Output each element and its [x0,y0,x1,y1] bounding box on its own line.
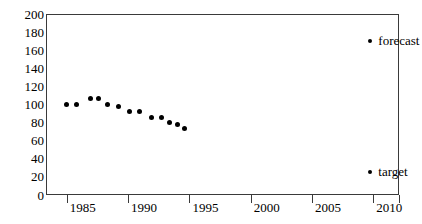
x-axis-tick-label: 2000 [254,200,280,215]
legend-label: forecast [378,34,419,47]
x-axis-tick-mark [251,195,252,203]
x-axis-tick-mark [373,195,374,203]
x-axis-tick-mark [189,195,190,203]
legend-marker-dot-icon [368,39,372,43]
data-point [88,96,93,101]
data-point [116,104,121,109]
x-axis-tick-mark [67,195,68,203]
x-axis-tick-label: 1990 [131,200,157,215]
x-axis: 198519901995200020052010 [0,0,422,224]
data-point [159,115,164,120]
data-point [175,122,180,127]
legend-item-target: target [368,165,407,178]
data-point [105,102,110,107]
legend-item-forecast: forecast [368,34,419,47]
data-point [137,109,142,114]
x-axis-tick-label: 1985 [70,200,96,215]
x-axis-tick-mark [128,195,129,203]
x-axis-tick-label: 1995 [192,200,218,215]
legend-label: target [378,165,407,178]
x-axis-tick-label: 2005 [315,200,341,215]
data-point [149,115,154,120]
data-point [96,96,101,101]
legend-marker-dot-icon [368,170,372,174]
chart-screenshot: 020406080100120140160180200 198519901995… [0,0,422,224]
x-axis-end-tick-mark [399,195,400,203]
x-axis-tick-mark [312,195,313,203]
